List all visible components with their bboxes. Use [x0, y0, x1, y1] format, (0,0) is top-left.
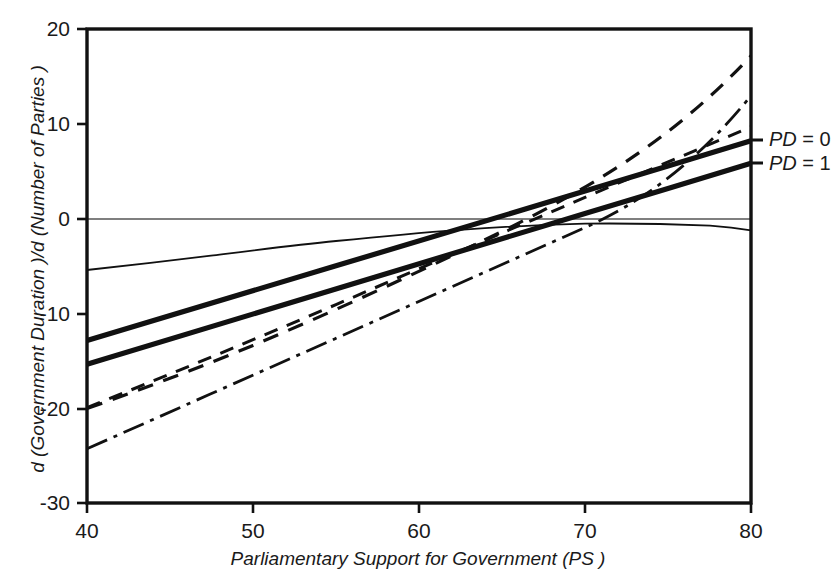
- x-tick-label-80: 80: [739, 519, 762, 543]
- x-tick-label-70: 70: [573, 519, 596, 543]
- legend-item-pd1-variable: PD: [769, 152, 797, 174]
- x-tick-label-40: 40: [75, 519, 98, 543]
- x-tick-label-50: 50: [241, 519, 264, 543]
- x-tick-label-60: 60: [407, 519, 430, 543]
- legend-item-pd0-value: = 0: [797, 128, 831, 150]
- legend-item-pd1: PD = 1: [769, 152, 831, 175]
- chart-figure: 20 10 0 -10 -20 -30 40 50 60 70 80 Parli…: [0, 0, 836, 584]
- y-axis-title: d (Government Duration )/d (Number of Pa…: [27, 9, 49, 529]
- legend-item-pd1-value: = 1: [797, 152, 831, 174]
- legend-item-pd0: PD = 0: [769, 128, 831, 151]
- legend-item-pd0-variable: PD: [769, 128, 797, 150]
- plot-canvas: [0, 0, 836, 584]
- x-axis-title: Parliamentary Support for Government (PS…: [0, 548, 836, 570]
- legend-leader-ticks: [751, 140, 763, 163]
